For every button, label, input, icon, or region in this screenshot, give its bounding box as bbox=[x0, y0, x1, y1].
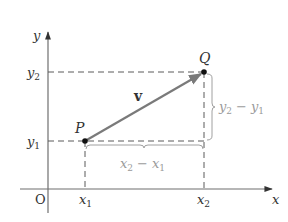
vector-v bbox=[85, 74, 201, 141]
vector-diagram: y x O y2 y1 x1 x2 P Q v x2−x1 y2−y1 bbox=[0, 0, 288, 222]
horizontal-component-label: x2−x1 bbox=[120, 156, 165, 173]
y1-tick-label: y1 bbox=[26, 134, 40, 151]
y-axis-label: y bbox=[32, 28, 41, 43]
vertical-component-label: y2−y1 bbox=[218, 99, 264, 116]
x2-tick-label: x2 bbox=[197, 192, 210, 209]
vector-v-label: v bbox=[133, 88, 143, 104]
vertical-brace bbox=[207, 74, 215, 140]
origin-label: O bbox=[35, 192, 46, 207]
x-axis-label: x bbox=[272, 192, 280, 207]
point-q bbox=[201, 69, 207, 75]
horizontal-brace bbox=[86, 145, 203, 149]
point-p bbox=[82, 138, 88, 144]
point-p-label: P bbox=[74, 120, 85, 136]
y2-tick-label: y2 bbox=[26, 65, 40, 82]
point-q-label: Q bbox=[199, 50, 211, 66]
guide-lines bbox=[48, 72, 204, 189]
x1-tick-label: x1 bbox=[79, 192, 92, 209]
axes bbox=[20, 32, 272, 213]
